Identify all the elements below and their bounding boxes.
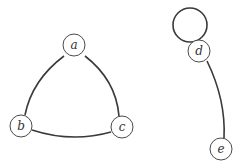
- edge-b-c: [32, 130, 111, 137]
- node-c-label: c: [119, 120, 126, 134]
- edge-a-b: [25, 56, 64, 115]
- node-d: d: [188, 40, 210, 62]
- edge-d-loop: [173, 8, 207, 42]
- node-b: b: [10, 115, 32, 137]
- node-c: c: [111, 116, 133, 138]
- node-b-label: b: [17, 119, 25, 133]
- edge-a-c: [85, 56, 119, 116]
- node-e-label: e: [217, 142, 224, 156]
- node-e: e: [210, 138, 232, 160]
- node-d-label: d: [195, 44, 203, 58]
- node-a-label: a: [70, 38, 77, 52]
- edge-d-e: [207, 61, 224, 138]
- graph-diagram: a b c d e: [0, 0, 244, 167]
- node-a: a: [63, 34, 85, 56]
